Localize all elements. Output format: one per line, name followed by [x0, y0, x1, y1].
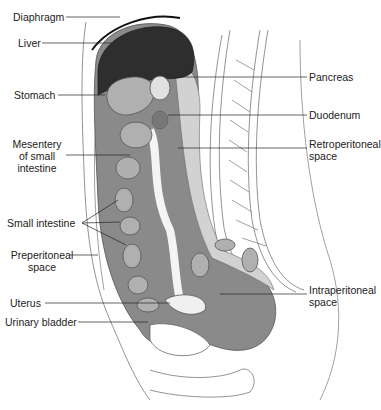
label-intraperitoneal: Intraperitoneal space	[309, 284, 376, 308]
label-intraperitoneal-line-1: Intraperitoneal	[309, 284, 376, 296]
pancreas-shape	[150, 76, 170, 100]
label-preperitoneal-line-1: Preperitoneal	[10, 249, 74, 261]
sagittal-section-illustration	[0, 0, 381, 410]
duodenum-shape	[152, 111, 168, 129]
label-diaphragm: Diaphragm	[13, 11, 64, 23]
label-mesentery-line-2: of small	[8, 150, 66, 162]
label-preperitoneal-line-2: space	[10, 261, 74, 273]
label-small-intestine: Small intestine	[7, 217, 75, 229]
label-retroperitoneal: Retroperitoneal space	[309, 138, 381, 162]
label-stomach: Stomach	[14, 89, 55, 101]
label-urinary-bladder: Urinary bladder	[5, 316, 77, 328]
label-mesentery-line-1: Mesentery	[8, 138, 66, 150]
label-retroperitoneal-line-1: Retroperitoneal	[309, 138, 381, 150]
label-duodenum: Duodenum	[309, 109, 360, 121]
label-mesentery: Mesentery of small intestine	[8, 138, 66, 174]
label-uterus: Uterus	[10, 297, 41, 309]
label-intraperitoneal-line-2: space	[309, 296, 376, 308]
label-pancreas: Pancreas	[309, 71, 353, 83]
label-liver: Liver	[18, 37, 41, 49]
label-retroperitoneal-line-2: space	[309, 150, 381, 162]
anatomy-diagram: Diaphragm Liver Stomach Mesentery of sma…	[0, 0, 381, 410]
label-mesentery-line-3: intestine	[8, 162, 66, 174]
label-preperitoneal: Preperitoneal space	[10, 249, 74, 273]
